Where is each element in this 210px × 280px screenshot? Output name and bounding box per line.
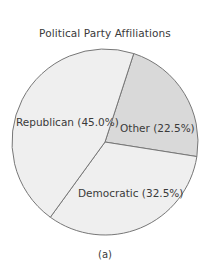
pie-chart xyxy=(0,0,210,280)
slice-label-democratic: Democratic (32.5%) xyxy=(78,187,183,199)
slice-label-other: Other (22.5%) xyxy=(120,122,195,134)
slice-label-republican: Republican (45.0%) xyxy=(16,116,119,128)
figure-caption: (a) xyxy=(0,249,210,260)
